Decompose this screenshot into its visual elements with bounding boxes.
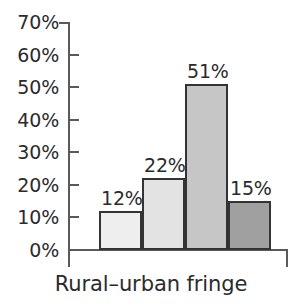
- y-axis-tick-label: 10%: [17, 208, 59, 227]
- y-axis-tick-label: 70%: [17, 13, 59, 32]
- bar: [142, 178, 185, 250]
- y-axis-tick-mark: [70, 86, 79, 88]
- y-axis-tick-label: 20%: [17, 175, 59, 194]
- y-axis-tick-label: 0%: [29, 241, 59, 260]
- bar-chart: 70%60%50%40%30%20%10%0% 12%22%51%15% Rur…: [0, 0, 302, 306]
- y-axis-tick-mark: [70, 184, 79, 186]
- y-axis-tick-label: 40%: [17, 110, 59, 129]
- bar: [228, 201, 271, 250]
- bar-value-label: 15%: [230, 179, 272, 198]
- x-axis-label: Rural–urban fringe: [0, 272, 302, 296]
- plot-area: 12%22%51%15%: [69, 22, 288, 250]
- y-axis-tick-label: 30%: [17, 143, 59, 162]
- y-axis-tick-mark: [70, 151, 79, 153]
- bar: [185, 84, 228, 250]
- y-axis-tick-mark: [70, 216, 79, 218]
- y-axis-tick-mark: [70, 249, 79, 251]
- bar-value-label: 22%: [144, 156, 186, 175]
- y-axis-tick-mark: [70, 54, 79, 56]
- y-axis-tick-mark: [70, 119, 79, 121]
- bar: [99, 211, 142, 250]
- x-axis-end-tick: [286, 249, 288, 267]
- bar-value-label: 51%: [187, 62, 229, 81]
- bar-value-label: 12%: [101, 189, 143, 208]
- y-axis-tick-labels: 70%60%50%40%30%20%10%0%: [0, 0, 59, 306]
- y-axis-tick-label: 50%: [17, 78, 59, 97]
- y-axis-tick-label: 60%: [17, 45, 59, 64]
